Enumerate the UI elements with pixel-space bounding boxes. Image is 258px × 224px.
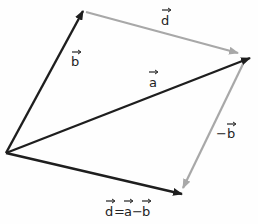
svg-text:b: b xyxy=(71,54,79,69)
svg-text:−b: −b xyxy=(216,126,235,141)
label-d-top: d xyxy=(161,8,171,28)
label-b: b xyxy=(71,50,81,69)
label-neg-b: −b xyxy=(216,122,236,141)
vector-b xyxy=(6,11,83,153)
svg-text:d: d xyxy=(105,204,113,219)
svg-text:a: a xyxy=(149,75,157,90)
vector-a xyxy=(6,58,250,153)
svg-text:a: a xyxy=(124,204,132,219)
svg-text:b: b xyxy=(142,204,150,219)
label-d-equals-a-minus-b: d = a − b xyxy=(105,199,151,219)
vector-diagram: b d a −b d = a − b xyxy=(0,0,258,224)
label-a: a xyxy=(149,70,158,90)
vector-d-result xyxy=(6,153,182,194)
svg-text:d: d xyxy=(161,13,169,28)
